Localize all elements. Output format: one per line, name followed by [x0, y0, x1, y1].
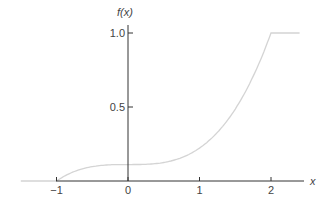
y-tick-label: 0.5	[110, 101, 125, 113]
y-ticks: 0.51.0	[110, 27, 133, 113]
y-axis-label: f(x)	[117, 6, 133, 18]
x-tick-label: 2	[268, 184, 274, 196]
plot-curve-group	[21, 33, 300, 181]
x-ticks: −1012	[50, 177, 274, 196]
cdf-chart: −1012 0.51.0 x f(x)	[0, 0, 333, 203]
x-tick-label: 1	[196, 184, 202, 196]
x-tick-label: −1	[50, 184, 63, 196]
x-tick-label: 0	[125, 184, 131, 196]
cdf-curve	[21, 33, 300, 181]
y-tick-label: 1.0	[110, 27, 125, 39]
x-axis-label: x	[309, 175, 316, 187]
